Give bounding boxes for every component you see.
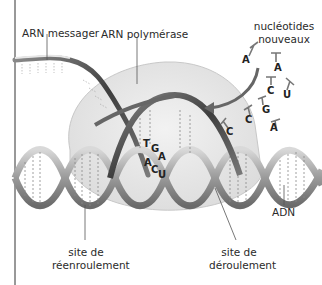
free-nucleotide: A	[242, 54, 250, 65]
rna-base: U	[158, 169, 166, 180]
free-nucleotide: C	[267, 85, 274, 96]
template-base: A	[158, 151, 166, 162]
mrna-label: ARN messager	[22, 27, 99, 40]
transcription-diagram: A A C U G C A C T G A A C U ARN messager…	[0, 0, 322, 285]
template-base: T	[143, 138, 150, 149]
free-nucleotide: A	[274, 62, 282, 73]
free-nucleotide: C	[226, 126, 233, 137]
nucleotides-label: nucléotides nouveaux	[239, 20, 322, 45]
unwinding-site-label: site de déroulement	[209, 246, 269, 271]
dna-label: ADN	[272, 206, 295, 219]
free-nucleotide: U	[283, 89, 291, 100]
free-nucleotide: A	[270, 122, 278, 133]
free-nucleotide: G	[262, 104, 270, 115]
polymerase-label: ARN polymérase	[101, 28, 188, 41]
free-nucleotide: C	[245, 114, 252, 125]
rewinding-site-label: site de réenroulement	[52, 246, 120, 271]
